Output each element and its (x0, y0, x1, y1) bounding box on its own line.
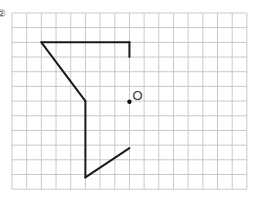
center-point-o (127, 100, 131, 104)
figure-edge (85, 148, 129, 177)
center-point-label: O (132, 88, 142, 103)
grid-diagram: ② O (0, 0, 257, 199)
problem-number-marker: ② (0, 8, 6, 19)
